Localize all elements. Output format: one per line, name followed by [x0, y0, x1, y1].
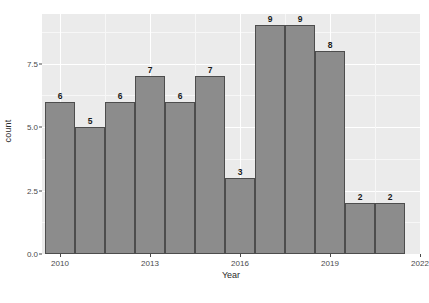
bar-2017	[255, 25, 285, 254]
x-axis: 20102013201620192022	[42, 254, 420, 270]
x-tick-label-2022: 2022	[411, 259, 429, 268]
y-tick-label-7.5: 7.5	[27, 59, 38, 68]
bar-value-label-2018: 9	[298, 14, 303, 24]
x-tick-label-2010: 2010	[51, 259, 69, 268]
x-tick-mark-2013	[150, 254, 151, 257]
x-tick-label-2013: 2013	[141, 259, 159, 268]
x-tick-mark-2022	[420, 254, 421, 257]
bar-value-label-2016: 3	[238, 167, 243, 177]
bar-value-label-2012: 6	[118, 91, 123, 101]
gridline-minor-horizontal	[42, 32, 420, 33]
bar-value-label-2013: 7	[148, 65, 153, 75]
gridline-major-horizontal	[42, 64, 420, 65]
bar-2010	[45, 102, 75, 254]
gridline-minor-horizontal	[42, 95, 420, 96]
bar-value-label-2014: 6	[178, 91, 183, 101]
bar-2015	[195, 76, 225, 254]
x-tick-mark-2016	[240, 254, 241, 257]
y-axis-title-text: count	[3, 119, 13, 142]
x-tick-label-2016: 2016	[231, 259, 249, 268]
bar-2011	[75, 127, 105, 254]
bar-2019	[315, 51, 345, 254]
bar-2020	[345, 203, 375, 254]
y-tick-label-2.5: 2.5	[27, 186, 38, 195]
x-tick-mark-2010	[60, 254, 61, 257]
bar-value-label-2015: 7	[208, 65, 213, 75]
x-tick-label-2019: 2019	[321, 259, 339, 268]
bar-2016	[225, 178, 255, 254]
bar-2013	[135, 76, 165, 254]
bar-value-label-2019: 8	[328, 40, 333, 50]
bar-value-label-2017: 9	[268, 14, 273, 24]
y-tick-label-5.0: 5.0	[27, 123, 38, 132]
bar-value-label-2010: 6	[58, 91, 63, 101]
bar-value-label-2011: 5	[88, 116, 93, 126]
bar-value-label-2020: 2	[358, 192, 363, 202]
y-tick-label-0.0: 0.0	[27, 250, 38, 259]
bar-value-label-2021: 2	[388, 192, 393, 202]
bar-2018	[285, 25, 315, 254]
y-axis-title: count	[0, 0, 16, 262]
plot-panel: 656767399822	[42, 14, 420, 254]
y-axis: 0.02.55.07.5	[16, 14, 42, 254]
bar-2014	[165, 102, 195, 254]
x-axis-title: Year	[42, 270, 420, 280]
bar-2012	[105, 102, 135, 254]
bar-2021	[375, 203, 405, 254]
x-tick-mark-2019	[330, 254, 331, 257]
